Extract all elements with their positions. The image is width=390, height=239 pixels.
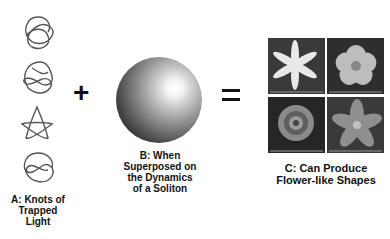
flower-caption bbox=[329, 91, 382, 93]
flower-star-image bbox=[268, 38, 325, 94]
flower-caption bbox=[270, 91, 323, 93]
flower-round-image bbox=[327, 38, 384, 94]
flower-lily-image bbox=[327, 97, 384, 153]
panel-b-label: B: When Superposed on the Dynamics of a … bbox=[104, 150, 216, 194]
equals-bar-top bbox=[222, 89, 240, 92]
soliton-sphere-image bbox=[116, 57, 202, 143]
equals-bar-bottom bbox=[222, 98, 240, 101]
plus-operator: + bbox=[73, 79, 89, 107]
panel-a-label: A: Knots of Trapped Light bbox=[2, 194, 74, 227]
flower-caption bbox=[329, 150, 382, 152]
flower-rosette-image bbox=[268, 97, 325, 153]
flower-grid bbox=[268, 38, 384, 153]
trefoil-knot-icon bbox=[18, 14, 58, 52]
figure-eight-knot-icon bbox=[18, 58, 58, 100]
twisted-knot-icon bbox=[18, 150, 58, 190]
pentagram-knot-icon bbox=[16, 104, 58, 146]
flower-caption bbox=[270, 150, 323, 152]
panel-c-label: C: Can Produce Flower-like Shapes bbox=[262, 162, 390, 186]
